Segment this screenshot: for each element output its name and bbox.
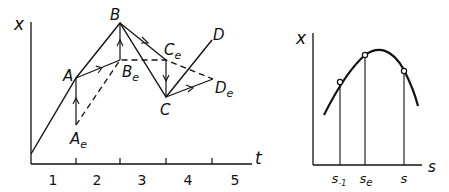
left-x-tick-labels: 1 2 3 4 5 [49, 172, 240, 188]
label-Ae: Ae [69, 130, 87, 151]
left-plot: x t 1 2 3 4 5 A B C D Ae [13, 6, 263, 188]
label-s: s [401, 171, 408, 186]
label-C: C [160, 101, 171, 119]
svg-text:3: 3 [138, 172, 147, 188]
right-plot: x s s-1 se s [295, 28, 436, 188]
label-D: D [213, 26, 225, 44]
diagram-canvas: x t 1 2 3 4 5 A B C D Ae [0, 0, 449, 192]
arrow-B-Ce [120, 23, 166, 60]
label-A: A [62, 67, 73, 85]
right-x-axis-label: s [428, 158, 436, 176]
label-s-minus-1: s-1 [332, 171, 347, 188]
left-x-axis-label: t [255, 148, 263, 168]
s-mark-labels: s-1 se s [332, 171, 408, 188]
left-x-ticks [76, 158, 212, 164]
svg-text:5: 5 [231, 172, 240, 188]
label-De: De [215, 79, 234, 100]
label-Be: Be [122, 63, 139, 84]
label-Ce: Ce [164, 41, 181, 62]
svg-text:2: 2 [93, 172, 102, 188]
label-B: B [110, 6, 120, 24]
right-y-axis-label: x [295, 28, 307, 48]
left-y-axis-label: x [13, 14, 25, 34]
point-labels: A B C D Ae Be Ce De [62, 6, 234, 151]
svg-text:1: 1 [49, 172, 58, 188]
label-s-e: se [360, 171, 373, 188]
svg-text:4: 4 [184, 172, 193, 188]
